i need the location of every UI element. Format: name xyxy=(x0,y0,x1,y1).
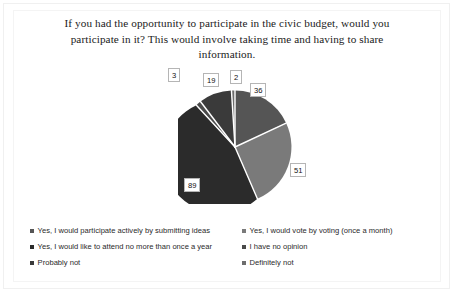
legend-item-vote-monthly[interactable]: Yes, I would vote by voting (once a mont… xyxy=(242,226,426,236)
legend-item-label: Definitely not xyxy=(250,258,294,268)
legend-item-label: Yes, I would like to attend no more than… xyxy=(38,242,213,252)
legend-marker-icon xyxy=(30,261,34,265)
legend-item-probably-not[interactable]: Probably not xyxy=(30,258,242,268)
legend-marker-icon xyxy=(242,229,246,233)
legend-marker-icon xyxy=(242,245,246,249)
legend-item-definitely-not[interactable]: Definitely not xyxy=(242,258,426,268)
legend-item-label: Yes, I would vote by voting (once a mont… xyxy=(250,226,393,236)
legend-item-attend-yearly[interactable]: Yes, I would like to attend no more than… xyxy=(30,242,242,252)
chart-title: If you had the opportunity to participat… xyxy=(42,16,412,63)
legend-item-no-opinion[interactable]: I have no opinion xyxy=(242,242,426,252)
data-label-19: 19 xyxy=(203,73,219,87)
legend-item-label: I have no opinion xyxy=(250,242,308,252)
chart-page: If you had the opportunity to participat… xyxy=(0,0,454,293)
data-label-2: 2 xyxy=(230,70,242,84)
data-label-3: 3 xyxy=(168,68,180,82)
data-label-89: 89 xyxy=(184,178,200,192)
legend-item-label: Yes, I would participate actively by sub… xyxy=(38,226,210,236)
legend-item-label: Probably not xyxy=(38,258,81,268)
data-label-51: 51 xyxy=(290,163,306,177)
legend-row: Yes, I would like to attend no more than… xyxy=(30,242,426,258)
legend-marker-icon xyxy=(242,261,246,265)
legend-marker-icon xyxy=(30,245,34,249)
legend-row: Probably not Definitely not xyxy=(30,258,426,274)
data-label-36: 36 xyxy=(250,83,266,97)
legend-row: Yes, I would participate actively by sub… xyxy=(30,226,426,242)
legend-item-participate-actively[interactable]: Yes, I would participate actively by sub… xyxy=(30,226,242,236)
legend-marker-icon xyxy=(30,229,34,233)
chart-legend: Yes, I would participate actively by sub… xyxy=(30,226,426,274)
